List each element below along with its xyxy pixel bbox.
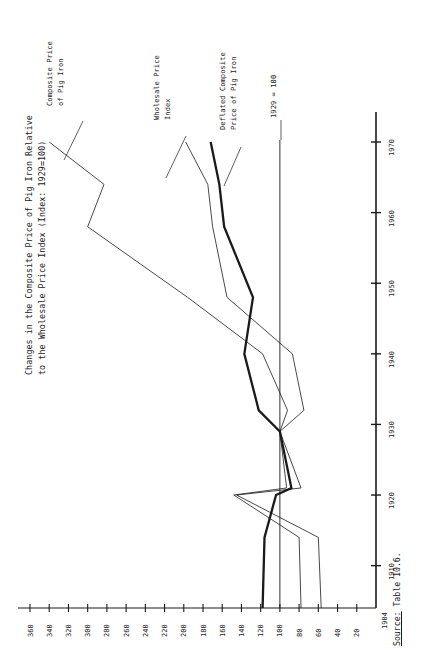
series-line-1 — [49, 142, 321, 608]
series-line-2 — [186, 142, 304, 608]
axis-lines — [18, 112, 376, 608]
plot-canvas — [0, 0, 432, 652]
chart-figure: Changes in the Composite Price of Pig Ir… — [0, 0, 432, 652]
series-paths — [49, 142, 321, 608]
annotation-leader-lines — [64, 120, 281, 186]
series-line-3 — [211, 142, 292, 608]
